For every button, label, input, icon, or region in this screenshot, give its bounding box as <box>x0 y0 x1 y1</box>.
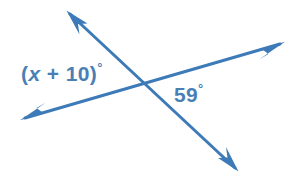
geometry-diagram: (x + 10)° 59° <box>0 0 302 186</box>
line-upper-left-to-lower-right <box>67 11 239 172</box>
degree-symbol-icon: ° <box>97 60 102 75</box>
line-segment-nw-se <box>70 14 235 168</box>
angle-value-59: 59 <box>174 83 198 106</box>
angle-expression-operator: + <box>47 62 60 85</box>
angle-expression-variable: x <box>28 62 40 85</box>
degree-symbol-icon: ° <box>198 81 203 96</box>
arrowhead-upper-left-icon <box>67 11 88 35</box>
arrowhead-lower-left-icon <box>20 103 46 121</box>
angle-expression-constant: 10 <box>66 62 90 85</box>
arrowhead-lower-right-icon <box>218 147 239 172</box>
intersecting-lines-svg <box>0 0 302 186</box>
angle-label-59: 59° <box>174 82 203 105</box>
angle-label-x-plus-10: (x + 10)° <box>21 61 102 84</box>
